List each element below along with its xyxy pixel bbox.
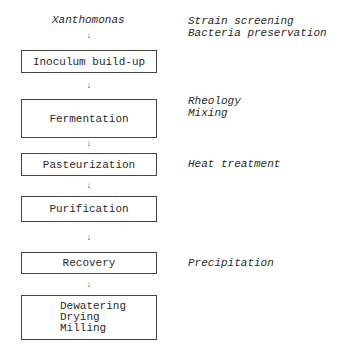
step-purification: Purification (21, 196, 157, 222)
start-label-xanthomonas: Xanthomonas (52, 14, 125, 26)
step-label: Purification (49, 203, 128, 215)
note-line: Precipitation (188, 257, 274, 269)
step-pasteurization: Pasteurization (21, 153, 157, 176)
note-recovery: Precipitation (188, 257, 274, 269)
note-line: Mixing (188, 107, 241, 119)
step-label: Recovery (63, 257, 116, 269)
step-label: Fermentation (49, 113, 128, 125)
note-line: Bacteria preservation (188, 27, 327, 39)
step-inoculum-build-up: Inoculum build-up (21, 50, 157, 73)
note-line: Strain screening (188, 15, 327, 27)
step-recovery: Recovery (21, 252, 157, 274)
step-label-line: Milling (60, 323, 106, 334)
note-line: Rheology (188, 95, 241, 107)
arrow-down-icon: ↓ (84, 140, 94, 149)
note-start: Strain screening Bacteria preservation (188, 15, 327, 39)
note-pasteurization: Heat treatment (188, 158, 280, 170)
step-label: Inoculum build-up (33, 56, 145, 68)
arrow-down-icon: ↓ (84, 182, 94, 191)
step-label: Pasteurization (43, 159, 135, 171)
arrow-down-icon: ↓ (84, 82, 94, 91)
arrow-down-icon: ↓ (84, 32, 94, 41)
arrow-down-icon: ↓ (84, 281, 94, 290)
step-dewatering-drying-milling: Dewatering Drying Milling (21, 295, 157, 340)
arrow-down-icon: ↓ (84, 234, 94, 243)
note-fermentation: Rheology Mixing (188, 95, 241, 119)
note-line: Heat treatment (188, 158, 280, 170)
step-fermentation: Fermentation (21, 99, 157, 138)
